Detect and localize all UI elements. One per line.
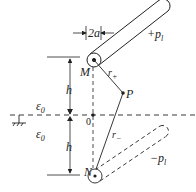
label-eps-upper: ε0 (36, 100, 45, 115)
label-h-lower: h (66, 141, 72, 153)
origin-point (91, 113, 95, 117)
label-minus-pl: −pl (150, 152, 166, 167)
label-p: P (126, 88, 133, 100)
label-m: M (80, 66, 90, 78)
label-h-upper: h (66, 84, 72, 96)
label-plus-pl: +pl (147, 28, 163, 43)
label-n: N (84, 166, 92, 178)
label-eps-lower: ε0 (36, 128, 45, 143)
label-r-plus: r+ (108, 68, 117, 81)
arrow-down-to-plane (67, 109, 73, 114)
point-p (121, 91, 125, 95)
ground-icon (12, 115, 26, 126)
label-2a: 2a (88, 27, 100, 39)
image-charge-center (93, 174, 96, 177)
label-origin: 0 (86, 117, 91, 127)
image-charge-diagram: 2a +pl M r+ P h ε0 0 ε0 r− h −pl N (0, 0, 196, 192)
arrow-up-to-plane (67, 116, 73, 121)
label-r-minus: r− (112, 130, 121, 143)
